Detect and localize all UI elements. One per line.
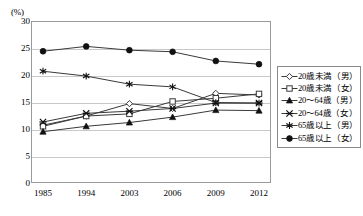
plot-series-layer — [31, 21, 271, 183]
legend-item-3[interactable]: 20～64歳（女） — [281, 107, 358, 119]
series-5 — [40, 43, 262, 67]
y-tick-10: 10 — [6, 125, 30, 134]
x-tick-1985: 1985 — [20, 188, 66, 198]
marker-open-square — [170, 99, 175, 104]
open-diamond-icon — [281, 71, 298, 82]
chart-figure: (%) 051015202530 19851994200320062009201… — [0, 0, 363, 216]
legend-item-label: 20歳未満（女） — [298, 84, 358, 93]
chart-legend: 20歳未満（男）20歳未満（女）20～64歳（男）20～64歳（女）65歳以上（… — [277, 66, 361, 148]
y-tick-25: 25 — [6, 44, 30, 53]
legend-item-2[interactable]: 20～64歳（男） — [281, 95, 358, 107]
series-3 — [39, 100, 262, 125]
legend-item-4[interactable]: 65歳以上（男） — [281, 120, 358, 132]
series-4 — [40, 68, 262, 107]
x-tick-2006: 2006 — [150, 188, 196, 198]
legend-item-1[interactable]: 20歳未満（女） — [281, 82, 358, 94]
marker-filled-circle — [40, 48, 46, 54]
open-square-icon — [281, 83, 298, 94]
series-2 — [40, 107, 262, 134]
marker-open-square — [256, 91, 261, 96]
x-tick-1994: 1994 — [63, 188, 109, 198]
x-tick-2003: 2003 — [106, 188, 152, 198]
filled-triangle-icon — [281, 95, 298, 106]
y-tick-15: 15 — [6, 98, 30, 107]
line-chart-svg — [31, 21, 271, 183]
marker-filled-circle — [287, 135, 293, 141]
marker-filled-circle — [256, 61, 262, 67]
y-tick-20: 20 — [6, 71, 30, 80]
x-tick-2012: 2012 — [236, 188, 282, 198]
marker-open-square — [287, 86, 292, 91]
y-tick-0: 0 — [6, 179, 30, 188]
marker-open-diamond — [126, 101, 132, 107]
marker-filled-circle — [127, 47, 133, 53]
marker-cross-x — [286, 110, 293, 116]
legend-item-label: 20～64歳（女） — [298, 109, 357, 118]
y-tick-30: 30 — [6, 17, 30, 26]
legend-item-label: 20歳未満（男） — [298, 72, 358, 81]
filled-circle-icon — [281, 133, 298, 144]
legend-item-label: 20～64歳（男） — [298, 96, 357, 105]
legend-item-label: 65歳以上（女） — [298, 134, 358, 143]
legend-item-label: 65歳以上（男） — [298, 121, 358, 130]
legend-item-0[interactable]: 20歳未満（男） — [281, 70, 358, 82]
cross-x-icon — [281, 108, 298, 119]
legend-item-5[interactable]: 65歳以上（女） — [281, 132, 358, 144]
y-tick-5: 5 — [6, 152, 30, 161]
marker-filled-circle — [83, 43, 89, 49]
asterisk-icon — [281, 120, 298, 131]
x-tick-2009: 2009 — [193, 188, 239, 198]
marker-filled-circle — [170, 49, 176, 55]
series-0 — [40, 90, 262, 128]
marker-open-diamond — [286, 73, 292, 79]
marker-filled-circle — [213, 58, 219, 64]
